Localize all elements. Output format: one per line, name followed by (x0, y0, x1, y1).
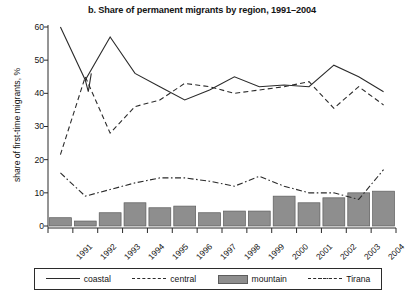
mountain-bars-group (49, 191, 394, 226)
mountain-bar (223, 211, 245, 226)
dashed-line-swatch-icon (132, 274, 166, 284)
legend-item-tirana: Tirana (308, 274, 370, 284)
gray-bar-swatch-icon (218, 275, 248, 284)
series-line-central (60, 77, 383, 155)
mountain-bar (74, 221, 96, 226)
solid-line-swatch-icon (46, 274, 80, 284)
mountain-bar (199, 213, 221, 226)
mountain-bar (49, 218, 71, 226)
legend-item-central: central (132, 274, 196, 284)
series-line-tirana (60, 170, 383, 200)
legend-label-mountain: mountain (252, 274, 287, 284)
lines-group (60, 27, 383, 199)
mountain-bar (373, 191, 395, 226)
chart-legend: coastal central mountain Tirana (34, 268, 382, 290)
legend-item-mountain: mountain (218, 274, 287, 284)
series-line-coastal (60, 27, 383, 100)
mountain-bar (248, 211, 270, 226)
mountain-bar (323, 198, 345, 226)
mountain-bar (273, 196, 295, 226)
legend-item-coastal: coastal (46, 274, 111, 284)
mountain-bar (99, 213, 121, 226)
dash-dot-line-swatch-icon (308, 274, 342, 284)
legend-label-coastal: coastal (84, 274, 111, 284)
mountain-bar (124, 203, 146, 226)
mountain-bar (298, 203, 320, 226)
legend-label-tirana: Tirana (346, 274, 370, 284)
mountain-bar (149, 208, 171, 226)
mountain-bar (174, 206, 196, 226)
legend-label-central: central (170, 274, 196, 284)
